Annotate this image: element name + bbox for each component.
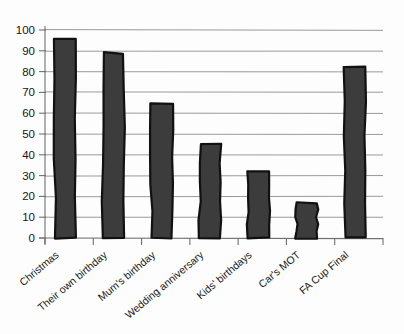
chart-canvas: 0102030405060708090100 ChristmasTheir ow… xyxy=(0,0,404,334)
y-axis-tick-label: 20 xyxy=(22,190,35,202)
gridline xyxy=(45,30,383,31)
bar xyxy=(344,67,366,238)
y-axis-tick-label: 90 xyxy=(22,45,35,57)
y-axis-tick-label: 100 xyxy=(16,24,35,36)
y-axis-tick-label: 60 xyxy=(22,107,35,119)
y-axis-tick-label: 30 xyxy=(22,170,35,182)
y-axis-tick-label: 50 xyxy=(22,128,35,140)
y-axis-tick-label: 70 xyxy=(22,86,35,98)
bar xyxy=(54,39,76,239)
y-axis-tick-labels: 0102030405060708090100 xyxy=(16,24,35,244)
x-axis-tick-label: Christmas xyxy=(17,248,61,288)
x-axis-tick-label: Car's MOT xyxy=(256,248,303,290)
y-axis-tick-label: 80 xyxy=(22,66,35,78)
bar-chart-figure: 0102030405060708090100 ChristmasTheir ow… xyxy=(0,0,404,334)
y-axis-tick-label: 10 xyxy=(22,211,35,223)
bar xyxy=(295,202,318,239)
x-axis-tick-label: FA Cup Final xyxy=(297,248,351,296)
x-axis-tick-label: Wedding anniversary xyxy=(122,248,206,321)
bar xyxy=(247,171,270,238)
bar-series xyxy=(54,39,366,239)
bar xyxy=(102,52,125,238)
bar xyxy=(198,144,221,239)
bar xyxy=(150,103,173,238)
y-axis-tick-label: 40 xyxy=(22,149,35,161)
x-axis-tick-labels: ChristmasTheir own birthdayMum's birthda… xyxy=(17,248,351,321)
y-axis-tick-label: 0 xyxy=(29,232,35,244)
